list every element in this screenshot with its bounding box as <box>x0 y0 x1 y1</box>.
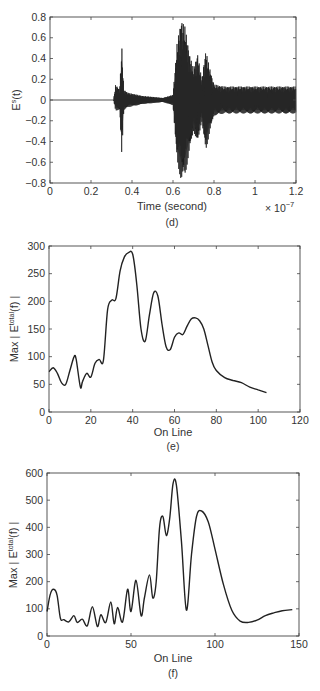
x-tick-label: 20 <box>85 414 97 426</box>
x-tick-label: 1 <box>252 185 258 197</box>
y-tick-label: 0.6 <box>31 31 46 43</box>
x-tick-label: 80 <box>210 414 222 426</box>
x-axis-label: Time (second) <box>137 200 207 212</box>
y-tick-label: 500 <box>25 494 43 506</box>
signal-envelope <box>114 40 296 161</box>
y-tick-label: 0 <box>40 94 46 106</box>
x-tick-label: 1.2 <box>289 185 304 197</box>
x-tick-label: 0.2 <box>84 185 99 197</box>
x-tick-label: 0.6 <box>166 185 181 197</box>
figure-caption: (f) <box>168 667 178 679</box>
y-tick-label: 0.4 <box>31 52 46 64</box>
y-tick-label: 250 <box>27 267 45 279</box>
y-tick-label: 200 <box>25 575 43 587</box>
plot-frame <box>47 473 299 636</box>
y-tick-label: 200 <box>27 295 45 307</box>
y-axis-label: Es(t) <box>10 89 22 110</box>
y-tick-label: 0.8 <box>31 11 46 23</box>
x-tick-label: 100 <box>206 638 224 650</box>
x-axis-ticks: 020406080100120 <box>46 246 309 426</box>
y-tick-label: −0.8 <box>25 177 46 189</box>
y-tick-label: 600 <box>25 467 43 479</box>
data-line <box>49 251 267 392</box>
y-tick-label: 100 <box>25 602 43 614</box>
y-tick-label: −0.6 <box>25 156 46 168</box>
y-tick-label: 0.2 <box>31 73 46 85</box>
y-tick-label: 150 <box>27 323 45 335</box>
x-tick-label: 50 <box>125 638 137 650</box>
x-axis-multiplier: × 10−7 <box>265 200 294 214</box>
x-tick-label: 150 <box>290 638 308 650</box>
y-axis-label: Max | Etotal(f) | <box>8 296 20 363</box>
y-tick-label: 0 <box>37 630 43 642</box>
y-tick-label: 400 <box>25 521 43 533</box>
chart-d-time-signal: 0.80.60.40.20−0.2−0.4−0.6−0.8 00.20.40.6… <box>0 0 320 230</box>
y-tick-label: 0 <box>39 406 45 418</box>
data-line <box>47 479 292 627</box>
y-tick-label: 300 <box>25 548 43 560</box>
y-axis-label: Max | Etotal(f) | <box>7 522 19 589</box>
y-tick-label: 50 <box>33 378 45 390</box>
y-tick-label: 100 <box>27 350 45 362</box>
y-axis-ticks: 300250200150100500 <box>27 240 300 418</box>
y-axis-ticks: 6005004003002001000 <box>25 467 299 642</box>
x-axis-label: On Line <box>154 652 193 664</box>
y-tick-label: −0.4 <box>25 135 46 147</box>
x-tick-label: 0 <box>44 638 50 650</box>
x-tick-label: 0.8 <box>207 185 222 197</box>
x-tick-label: 40 <box>127 414 139 426</box>
x-axis-label: On Line <box>154 426 193 438</box>
plot-frame <box>49 246 300 412</box>
x-tick-label: 120 <box>291 414 309 426</box>
x-axis-ticks: 050100150 <box>44 473 308 650</box>
plot-area <box>50 23 296 178</box>
y-tick-label: 300 <box>27 240 45 252</box>
x-tick-label: 0 <box>46 414 52 426</box>
x-tick-label: 0.4 <box>125 185 140 197</box>
figure-caption: (e) <box>167 440 180 452</box>
figure-caption: (d) <box>166 216 179 228</box>
y-tick-label: −0.2 <box>25 114 46 126</box>
x-tick-label: 100 <box>249 414 267 426</box>
x-tick-label: 60 <box>169 414 181 426</box>
x-tick-label: 0 <box>47 185 53 197</box>
